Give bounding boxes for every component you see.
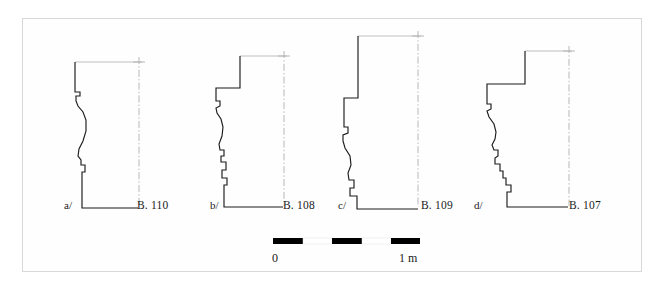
profile-c-outline[interactable] bbox=[343, 36, 418, 209]
profile-b-key-label: b/ bbox=[210, 199, 220, 211]
profile-d-catalog-label: B. 107 bbox=[569, 199, 601, 211]
profile-c-key-label: c/ bbox=[338, 199, 347, 211]
figure-plate: a/ B. 110 b/ B. 108 c/ B. 109 d/ bbox=[0, 0, 667, 289]
profiles-drawing-canvas: a/ B. 110 b/ B. 108 c/ B. 109 d/ bbox=[0, 0, 667, 289]
profile-a-outline[interactable] bbox=[75, 62, 138, 208]
scale-bar-segments bbox=[273, 238, 420, 244]
scale-bar-segment-0 bbox=[273, 238, 303, 244]
profile-a-catalog-label: B. 110 bbox=[137, 199, 168, 211]
profile-b-catalog-label: B. 108 bbox=[283, 199, 315, 211]
profile-b-outline[interactable] bbox=[216, 56, 283, 207]
scale-bar-segment-4 bbox=[391, 238, 420, 244]
profile-group-d[interactable]: d/ B. 107 bbox=[474, 46, 601, 211]
scale-bar: 0 1 m bbox=[272, 238, 420, 265]
profile-d-outline[interactable] bbox=[487, 51, 568, 207]
scale-bar-segment-1 bbox=[303, 238, 332, 244]
profile-a-key-label: a/ bbox=[64, 199, 73, 211]
profile-group-a[interactable]: a/ B. 110 bbox=[64, 57, 168, 211]
profile-group-c[interactable]: c/ B. 109 bbox=[338, 31, 453, 211]
scale-bar-label-zero: 0 bbox=[272, 251, 278, 265]
scale-bar-label-one-meter: 1 m bbox=[399, 251, 418, 265]
scale-bar-segment-3 bbox=[362, 238, 391, 244]
profile-d-key-label: d/ bbox=[474, 199, 484, 211]
profile-group-b[interactable]: b/ B. 108 bbox=[210, 51, 315, 211]
scale-bar-segment-2 bbox=[332, 238, 362, 244]
profile-c-catalog-label: B. 109 bbox=[421, 199, 453, 211]
